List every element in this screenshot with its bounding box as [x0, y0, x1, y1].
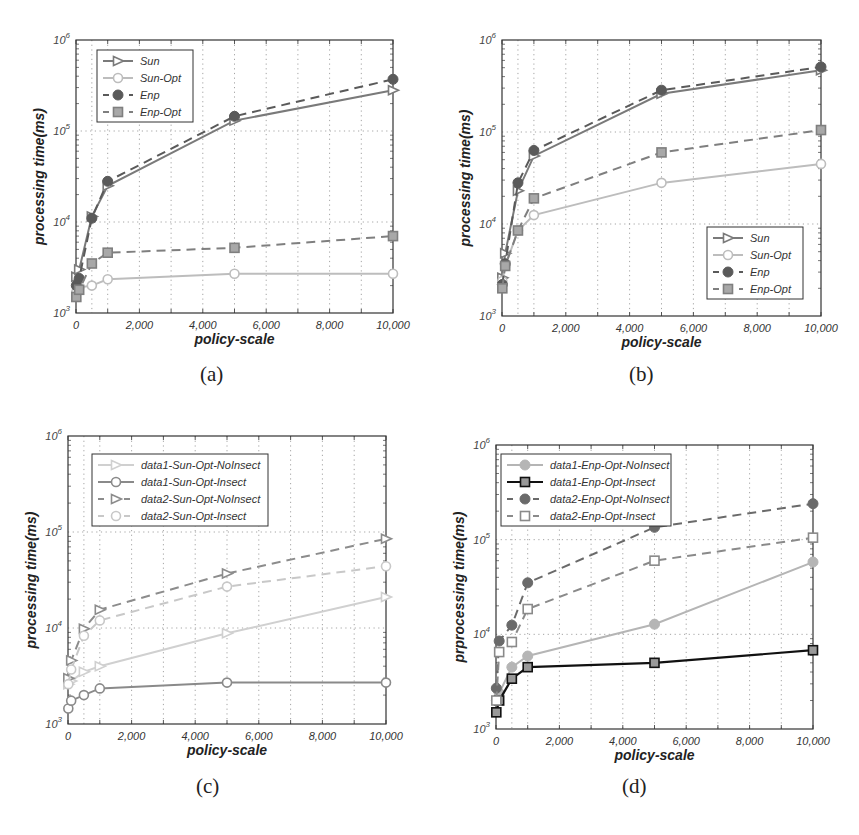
legend-label: data1-Sun-Opt-NoInsect [141, 459, 261, 471]
legend-label: data2-Enp-Opt-Insect [550, 510, 656, 522]
legend: SunSun-OptEnpEnp-Opt [707, 227, 803, 299]
y-tick-label: 105 [45, 523, 62, 538]
x-tick-label: 4,000 [181, 730, 209, 742]
chart-panel-a: 02,0004,0006,0008,00010,000103104105106p… [31, 31, 411, 347]
x-tick-label: 10,000 [369, 730, 404, 742]
chart-panel-c: 02,0004,0006,0008,00010,000103104105106p… [23, 427, 404, 758]
x-tick-label: 8,000 [743, 322, 771, 334]
x-tick-label: 10,000 [376, 319, 411, 331]
figure: 02,0004,0006,0008,00010,000103104105106p… [0, 0, 859, 835]
legend: data1-Sun-Opt-NoInsectdata1-Sun-Opt-Inse… [92, 454, 268, 526]
y-tick-label: 106 [45, 427, 62, 442]
y-axis-label: processing time(ms) [31, 108, 47, 246]
x-tick-label: 8,000 [309, 730, 337, 742]
x-tick-label: 8,000 [736, 735, 764, 747]
y-axis-label: processing time(ms) [457, 109, 473, 247]
y-tick-label: 105 [479, 123, 496, 138]
legend-label: data1-Sun-Opt-Insect [141, 476, 247, 488]
x-axis-label: policy-scale [193, 331, 274, 347]
x-axis-label: policy-scale [613, 747, 694, 763]
legend-label: Sun [140, 55, 160, 67]
y-axis-label: prprocessing time(ms) [451, 511, 467, 663]
y-tick-label: 103 [53, 304, 70, 319]
x-tick-label: 2,000 [117, 730, 146, 742]
y-tick-label: 104 [45, 619, 62, 634]
y-axis-label: processing time(ms) [23, 511, 39, 649]
legend-label: Sun-Opt [140, 72, 182, 84]
y-tick-label: 104 [473, 625, 490, 640]
x-tick-label: 2,000 [551, 322, 580, 334]
y-tick-label: 105 [473, 531, 490, 546]
x-tick-label: 4,000 [189, 319, 217, 331]
chart-panel-d: 02,0004,0006,0008,00010,000103104105106p… [451, 436, 831, 763]
legend-label: Enp [140, 89, 160, 101]
y-tick-label: 103 [479, 307, 496, 322]
x-tick-label: 8,000 [316, 319, 344, 331]
legend-label: data1-Enp-Opt-NoInsect [550, 459, 670, 471]
x-tick-label: 2,000 [125, 319, 154, 331]
legend: data1-Enp-Opt-NoInsectdata1-Enp-Opt-Inse… [501, 454, 671, 526]
y-tick-label: 105 [53, 122, 70, 137]
x-tick-label: 6,000 [252, 319, 280, 331]
caption-b: (b) [629, 362, 654, 387]
caption-a: (a) [200, 362, 223, 387]
x-tick-label: 4,000 [616, 322, 644, 334]
legend-label: data2-Enp-Opt-NoInsect [550, 493, 670, 505]
legend-label: Enp [750, 266, 770, 278]
x-axis-label: policy-scale [620, 334, 701, 350]
caption-d: (d) [622, 774, 647, 799]
legend-label: data1-Enp-Opt-Insect [550, 476, 656, 488]
x-tick-label: 0 [65, 730, 72, 742]
legend-label: Enp-Opt [140, 106, 182, 118]
x-tick-label: 0 [73, 319, 80, 331]
y-tick-label: 103 [473, 720, 490, 735]
x-tick-label: 10,000 [796, 735, 831, 747]
x-tick-label: 6,000 [672, 735, 700, 747]
x-tick-label: 10,000 [804, 322, 839, 334]
x-tick-label: 6,000 [245, 730, 273, 742]
legend-label: Sun [750, 232, 770, 244]
caption-c: (c) [196, 774, 219, 799]
x-tick-label: 0 [499, 322, 506, 334]
legend-label: data2-Sun-Opt-NoInsect [141, 493, 261, 505]
y-tick-label: 104 [479, 215, 496, 230]
legend: SunSun-OptEnpEnp-Opt [97, 50, 193, 122]
y-tick-label: 103 [45, 715, 62, 730]
figure-canvas: 02,0004,0006,0008,00010,000103104105106p… [0, 0, 859, 835]
legend-label: Enp-Opt [750, 283, 792, 295]
y-tick-label: 106 [53, 31, 70, 46]
x-tick-label: 2,000 [545, 735, 574, 747]
y-tick-label: 106 [479, 31, 496, 46]
x-tick-label: 4,000 [609, 735, 637, 747]
legend-label: data2-Sun-Opt-Insect [141, 510, 247, 522]
x-tick-label: 0 [493, 735, 500, 747]
y-tick-label: 104 [53, 213, 70, 228]
chart-panel-b: 02,0004,0006,0008,00010,000103104105106p… [457, 31, 839, 350]
x-axis-label: policy-scale [186, 742, 267, 758]
x-tick-label: 6,000 [680, 322, 708, 334]
y-tick-label: 106 [473, 436, 490, 451]
legend-label: Sun-Opt [750, 249, 792, 261]
